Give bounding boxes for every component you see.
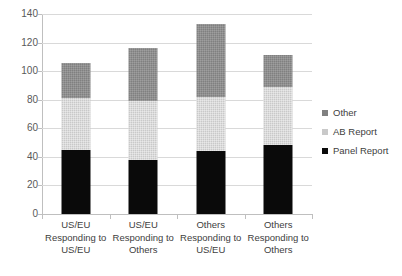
chart-legend: Other AB Report Panel Report — [322, 103, 402, 160]
y-tick-label: 60 — [4, 123, 38, 133]
x-axis-label-line2: Responding to — [42, 232, 110, 245]
legend-label: AB Report — [333, 126, 377, 137]
legend-label: Panel Report — [333, 145, 388, 156]
plot-area — [42, 14, 312, 214]
y-tick-label: 100 — [4, 66, 38, 76]
x-axis-label-line1: Others — [177, 219, 245, 232]
bar-segment-ab-report — [264, 87, 293, 146]
x-axis-label-line2: Responding to — [177, 232, 245, 245]
stacked-bar — [61, 63, 90, 214]
bar-group — [42, 14, 110, 214]
x-axis-label-line1: US/EU — [42, 219, 110, 232]
legend-item-ab-report: AB Report — [322, 122, 402, 141]
bar-segment-other — [61, 63, 90, 99]
bar-segment-panel-report — [264, 145, 293, 214]
stacked-bar — [264, 55, 293, 214]
y-axis: 140 120 100 80 60 40 20 0 — [0, 0, 38, 276]
stacked-bar — [196, 24, 225, 214]
x-axis-label-line2: Responding to — [110, 232, 178, 245]
x-axis-label: US/EU Responding to Others — [110, 219, 178, 271]
stacked-bar-chart: 140 120 100 80 60 40 20 0 — [0, 0, 402, 276]
x-axis-label-line3: US/EU — [42, 244, 110, 257]
x-axis-label: Others Responding to Others — [245, 219, 313, 271]
y-tick-label: 40 — [4, 152, 38, 162]
bar-segment-panel-report — [61, 150, 90, 214]
legend-item-other: Other — [322, 103, 402, 122]
y-tick-label: 0 — [4, 209, 38, 219]
y-tick-label: 80 — [4, 95, 38, 105]
x-axis-label-line3: Others — [245, 244, 313, 257]
panel-report-swatch-icon — [322, 148, 328, 154]
legend-label: Other — [333, 107, 357, 118]
x-axis-label-line3: US/EU — [177, 244, 245, 257]
y-tick-label: 120 — [4, 38, 38, 48]
bar-segment-other — [264, 55, 293, 86]
x-axis-label: Others Responding to US/EU — [177, 219, 245, 271]
bar-segment-other — [196, 24, 225, 97]
legend-item-panel-report: Panel Report — [322, 141, 402, 160]
bar-segment-ab-report — [61, 98, 90, 149]
other-swatch-icon — [322, 110, 328, 116]
bar-group — [245, 14, 313, 214]
x-axis-label-line2: Responding to — [245, 232, 313, 245]
x-axis-label-line1: US/EU — [110, 219, 178, 232]
bar-segment-other — [129, 48, 158, 101]
x-axis-tick — [312, 214, 313, 219]
bar-segment-panel-report — [196, 151, 225, 214]
x-axis-label: US/EU Responding to US/EU — [42, 219, 110, 271]
bar-segment-ab-report — [129, 101, 158, 160]
x-axis-label-line1: Others — [245, 219, 313, 232]
y-tick-label: 20 — [4, 180, 38, 190]
bar-group — [177, 14, 245, 214]
x-axis-label-line3: Others — [110, 244, 178, 257]
bar-segment-panel-report — [129, 160, 158, 214]
bar-segment-ab-report — [196, 97, 225, 151]
ab-report-swatch-icon — [322, 129, 328, 135]
y-tick-label: 140 — [4, 9, 38, 19]
bar-group — [110, 14, 178, 214]
stacked-bar — [129, 48, 158, 214]
x-axis-labels: US/EU Responding to US/EU US/EU Respondi… — [42, 219, 312, 271]
